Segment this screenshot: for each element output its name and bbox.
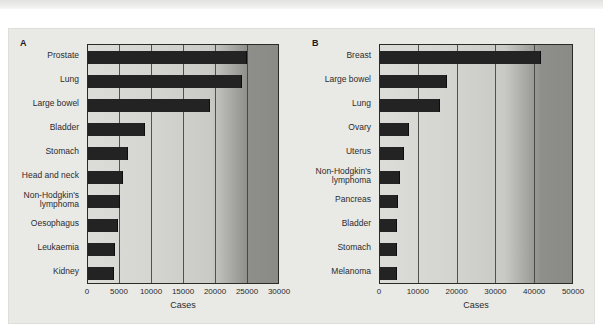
category-label: Ovary	[348, 123, 371, 133]
x-tick-label: 5000	[110, 287, 128, 296]
bar	[88, 147, 128, 160]
category-label: Uterus	[346, 147, 371, 157]
bar-row	[88, 189, 120, 213]
gridline-40000	[534, 45, 535, 283]
category-label: Melanoma	[331, 267, 371, 277]
bar	[380, 75, 447, 88]
gridline-25000	[247, 45, 248, 283]
bar-row	[88, 165, 123, 189]
bar-row	[380, 237, 397, 261]
bar	[380, 51, 541, 64]
x-tick-label: 20000	[204, 287, 226, 296]
panel-a-plot-area	[87, 44, 279, 284]
bar-row	[380, 93, 440, 117]
category-label: Head and neck	[22, 171, 79, 181]
category-label: Lung	[60, 75, 79, 85]
x-tick-label: 15000	[172, 287, 194, 296]
panel-a-category-labels: ProstateLungLarge bowelBladderStomachHea…	[8, 44, 83, 284]
bar	[88, 243, 115, 256]
panel-b-category-labels: BreastLarge bowelLungOvaryUterusNon-Hodg…	[302, 44, 375, 284]
bar	[380, 195, 398, 208]
bar-row	[380, 189, 398, 213]
bar	[88, 75, 242, 88]
bar	[88, 123, 145, 136]
bar	[380, 219, 397, 232]
x-tick-label: 25000	[236, 287, 258, 296]
bar-row	[380, 213, 397, 237]
category-label: Bladder	[342, 219, 371, 229]
bar	[380, 147, 404, 160]
figure-container: A ProstateLungLarge bowelBladderStomachH…	[0, 0, 603, 333]
bar-row	[380, 117, 409, 141]
bar-row	[88, 141, 128, 165]
bar-row	[380, 45, 541, 69]
panel-b-plot-area	[379, 44, 573, 284]
category-label: Prostate	[47, 51, 79, 61]
category-label: Lung	[352, 99, 371, 109]
bar-row	[380, 165, 400, 189]
category-label: Pancreas	[335, 195, 371, 205]
category-label: Non-Hodgkin's lymphoma	[316, 167, 371, 186]
x-tick-label: 30000	[268, 287, 290, 296]
panel-b-x-axis-title: Cases	[379, 300, 573, 310]
bar-row	[380, 141, 404, 165]
x-tick-label: 50000	[562, 287, 584, 296]
gridline-30000	[495, 45, 496, 283]
bar-row	[88, 117, 145, 141]
category-label: Stomach	[337, 243, 371, 253]
bar-row	[88, 237, 115, 261]
bar	[88, 51, 247, 64]
category-label: Large bowel	[325, 75, 371, 85]
bar-row	[88, 45, 247, 69]
chart-panel-b: B BreastLarge bowelLungOvaryUterusNon-Ho…	[302, 28, 595, 324]
bar-row	[88, 213, 118, 237]
bar	[88, 171, 123, 184]
x-tick-label: 0	[85, 287, 89, 296]
bar	[88, 219, 118, 232]
x-tick-label: 10000	[407, 287, 429, 296]
bar	[380, 171, 400, 184]
bar	[380, 99, 440, 112]
bar	[380, 123, 409, 136]
bar	[88, 195, 120, 208]
bar-row	[88, 69, 242, 93]
bar-row	[380, 261, 397, 284]
bar-row	[88, 93, 210, 117]
category-label: Non-Hodgkin's lymphoma	[24, 191, 79, 210]
category-label: Breast	[346, 51, 371, 61]
category-label: Leukaemia	[37, 243, 79, 253]
bar	[380, 243, 397, 256]
x-tick-label: 40000	[523, 287, 545, 296]
page-top-strip	[0, 0, 603, 9]
bar-row	[380, 69, 447, 93]
bar-row	[88, 261, 114, 284]
chart-panel-a: A ProstateLungLarge bowelBladderStomachH…	[8, 28, 302, 324]
x-tick-label: 20000	[445, 287, 467, 296]
category-label: Oesophagus	[31, 219, 79, 229]
category-label: Stomach	[45, 147, 79, 157]
gridline-20000	[457, 45, 458, 283]
bar	[380, 267, 397, 280]
panel-a-x-axis-title: Cases	[87, 300, 279, 310]
bar	[88, 267, 114, 280]
category-label: Large bowel	[33, 99, 79, 109]
x-tick-label: 30000	[484, 287, 506, 296]
category-label: Bladder	[50, 123, 79, 133]
bar	[88, 99, 210, 112]
x-tick-label: 0	[377, 287, 381, 296]
category-label: Kidney	[53, 267, 79, 277]
x-tick-label: 10000	[140, 287, 162, 296]
